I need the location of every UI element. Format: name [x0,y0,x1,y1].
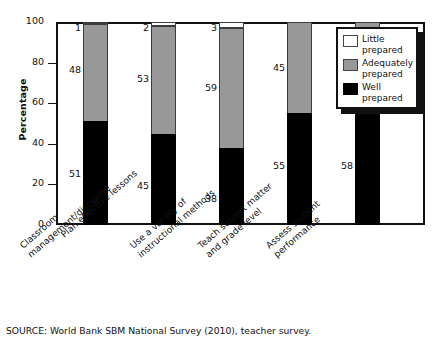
x-axis-category-labels: Classroom management/discipline Plan eff… [0,225,444,335]
bar-segment-adequate-1 [83,24,108,121]
y-tick-mark-20 [48,184,56,185]
y-tick-label-100: 100 [26,15,44,26]
value-label-little-2: 2 [123,22,149,33]
y-axis-title: Percentage [17,50,28,170]
legend-item-little[interactable]: Little prepared [343,34,412,55]
y-tick-mark-60 [48,103,56,104]
y-tick-label-40: 40 [32,137,44,148]
legend-label-adequate: Adequately prepared [362,58,413,79]
value-label-adequate-3: 59 [191,82,217,93]
y-tick-mark-40 [48,144,56,145]
value-label-adequate-4: 45 [259,62,285,73]
gray-swatch-icon [343,59,358,71]
value-label-well-1: 51 [55,168,81,179]
y-tick-label-20: 20 [32,177,44,188]
legend-item-adequate[interactable]: Adequately prepared [343,58,412,79]
value-label-well-4: 55 [259,160,285,171]
bar-group-plan-lessons[interactable] [151,22,176,225]
source-note: SOURCE: World Bank SBM National Survey (… [6,325,311,336]
bar-segment-adequate-3 [219,28,244,148]
value-label-little-3: 3 [191,22,217,33]
bar-segment-adequate-2 [151,26,176,134]
value-label-little-1: 1 [55,22,81,33]
bar-group-instructional-methods[interactable] [219,22,244,225]
value-label-adequate-1: 48 [55,64,81,75]
bar-group-subject-matter[interactable] [287,22,312,225]
legend-label-well: Well prepared [362,82,403,103]
value-label-adequate-2: 53 [123,73,149,84]
stacked-bar-chart-figure: Percentage 100 80 60 40 20 0 [0,0,444,343]
y-tick-label-80: 80 [32,56,44,67]
legend-item-well[interactable]: Well prepared [343,82,412,103]
legend-label-little: Little prepared [362,34,403,55]
value-label-well-5: 58 [327,160,353,171]
black-swatch-icon [343,83,358,95]
white-swatch-icon [343,35,358,47]
y-tick-label-60: 60 [32,96,44,107]
legend: Little prepared Adequately prepared Well… [336,27,418,109]
bar-segment-adequate-4 [287,22,312,113]
bar-segment-well-5 [355,107,380,225]
